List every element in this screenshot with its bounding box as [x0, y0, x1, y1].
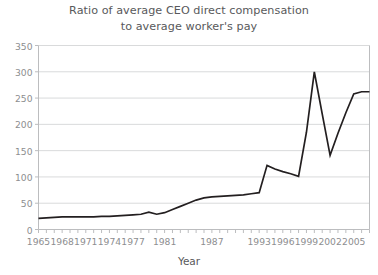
y-axis-tick-label: 50	[0, 198, 33, 209]
x-axis-tick-label: 1974	[98, 236, 121, 247]
x-axis-title: Year	[0, 255, 378, 267]
x-axis-tick-label: 1977	[121, 236, 144, 247]
x-axis-tick-label: 1968	[50, 236, 73, 247]
x-axis-tick-label: 1971	[74, 236, 97, 247]
x-axis-tick-label: 2002	[318, 236, 341, 247]
x-axis-tick-label: 1987	[200, 236, 223, 247]
x-axis-tick-label: 1965	[27, 236, 50, 247]
y-axis-tick-label: 350	[0, 40, 33, 51]
chart-figure: Ratio of average CEO direct compensation…	[0, 0, 378, 275]
y-axis-tick-label: 200	[0, 119, 33, 130]
x-axis-tick-label: 1993	[247, 236, 270, 247]
y-axis-tick-label: 100	[0, 171, 33, 182]
x-axis-tick-label: 1981	[153, 236, 176, 247]
y-axis-tick-label: 250	[0, 93, 33, 104]
line-chart-plot	[0, 0, 378, 275]
y-axis-tick-label: 150	[0, 145, 33, 156]
x-axis-tick-label: 1999	[295, 236, 318, 247]
x-axis-tick-label: 2005	[342, 236, 365, 247]
x-axis-tick-label: 1996	[271, 236, 294, 247]
y-axis-tick-label: 300	[0, 66, 33, 77]
data-series-line	[39, 72, 370, 219]
y-axis-tick-label: 0	[0, 224, 33, 235]
